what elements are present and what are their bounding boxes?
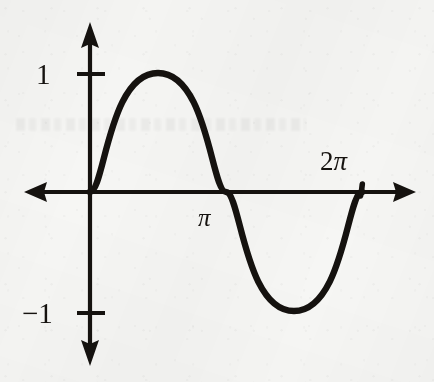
two-pi-symbol: π: [334, 146, 348, 176]
sine-curve-endpoint-overshoot: [361, 184, 363, 196]
two-pi-number: 2: [320, 146, 334, 176]
x-axis-label-pi: π: [198, 205, 211, 230]
y-axis-label-one: 1: [36, 60, 51, 89]
plot-canvas: [0, 0, 434, 382]
sine-curve-figure: 1 −1 π 2π: [0, 0, 434, 382]
x-axis-right-arrowhead: [393, 182, 416, 202]
y-axis-label-negative-one: −1: [22, 299, 53, 328]
x-axis-left-arrowhead: [24, 182, 47, 202]
x-axis-label-two-pi: 2π: [320, 148, 347, 175]
